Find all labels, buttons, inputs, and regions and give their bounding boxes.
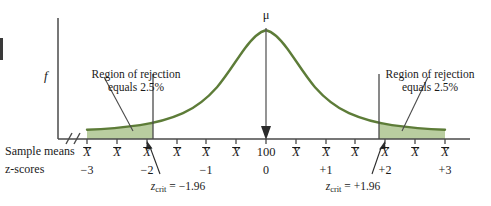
left-annotation-line1: Region of rejection — [92, 68, 181, 80]
sample-mean-tick: X — [143, 145, 151, 159]
left-annotation-line2: equals 2.5% — [78, 81, 194, 94]
normal-distribution-figure: f μ Region of rejection equals 2.5% Regi… — [0, 0, 491, 206]
right-zcrit-value: = +1.96 — [344, 180, 380, 192]
sample-means-row-label: Sample means — [5, 145, 75, 158]
mu-arrow — [261, 28, 271, 140]
right-zcrit-subscript: crit — [330, 184, 341, 194]
sample-mean-tick: X — [292, 145, 300, 159]
left-zcrit-subscript: crit — [155, 184, 166, 194]
center-value-label: 100 — [257, 145, 276, 159]
z-score-tick: +3 — [439, 164, 452, 177]
left-zcrit-label: zcrit = −1.96 — [151, 180, 206, 193]
z-scores-row-label: z-scores — [5, 163, 44, 176]
right-rejection-region-fill — [379, 124, 445, 139]
left-rejection-region-fill — [87, 124, 153, 139]
sample-mean-tick: X — [173, 145, 181, 159]
sample-mean-tick: X — [411, 145, 419, 159]
distribution-plot — [0, 0, 491, 206]
z-score-tick: 0 — [263, 164, 269, 177]
sample-mean-tick: X — [113, 145, 121, 159]
sample-mean-tick: X — [83, 145, 91, 159]
sample-mean-tick: X — [351, 145, 359, 159]
right-region-of-rejection-annotation: Region of rejection equals 2.5% — [372, 68, 488, 94]
mu-label: μ — [263, 8, 270, 22]
z-score-tick: −1 — [200, 164, 213, 177]
y-axis-label: f — [44, 69, 48, 84]
left-zcrit-value: = −1.96 — [169, 180, 205, 192]
sample-mean-tick: X — [441, 145, 449, 159]
sample-mean-tick: X — [322, 145, 330, 159]
z-score-tick: +2 — [379, 164, 392, 177]
left-region-of-rejection-annotation: Region of rejection equals 2.5% — [78, 68, 194, 94]
right-annotation-line2: equals 2.5% — [372, 81, 488, 94]
z-score-tick: +1 — [320, 164, 333, 177]
sample-mean-tick: X — [202, 145, 210, 159]
right-zcrit-label: zcrit = +1.96 — [326, 180, 381, 193]
sample-mean-tick: X — [232, 145, 240, 159]
sample-mean-tick: X — [381, 145, 389, 159]
right-annotation-line1: Region of rejection — [386, 68, 475, 80]
z-score-tick: −3 — [81, 164, 94, 177]
z-score-tick: −2 — [141, 164, 154, 177]
